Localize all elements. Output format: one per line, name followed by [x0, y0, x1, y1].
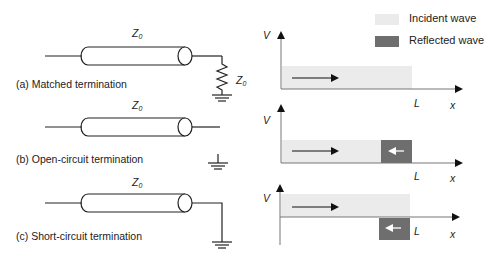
caption-b: (b) Open-circuit termination	[16, 153, 143, 165]
line-impedance-label-c: Z0	[132, 176, 142, 189]
coax-cable-body	[81, 118, 185, 136]
v-axis-label-b: V	[263, 114, 270, 126]
length-label-a: L	[414, 97, 420, 109]
load-impedance-label-a: Z0	[236, 74, 246, 87]
plot-b	[281, 106, 461, 163]
length-label-b: L	[414, 170, 420, 182]
coax-cable-end	[178, 118, 192, 136]
reflected-legend-swatch	[375, 36, 399, 47]
incident-legend-label: Incident wave	[409, 12, 476, 24]
x-axis-label-c: x	[450, 228, 455, 240]
caption-a: (a) Matched termination	[16, 78, 127, 90]
short-wire	[192, 203, 222, 242]
length-label-c: L	[414, 225, 420, 237]
incident-legend-swatch	[375, 14, 399, 25]
line-impedance-label-a: Z0	[132, 27, 142, 40]
v-axis-label-a: V	[263, 29, 270, 41]
ground-icon	[212, 95, 232, 101]
coax-cable-body	[81, 47, 185, 65]
line-impedance-label-b: Z0	[132, 99, 142, 112]
ground-icon	[208, 154, 228, 169]
circuit-a-matched	[45, 47, 232, 101]
coax-cable-end	[178, 194, 192, 212]
x-axis-label-b: x	[450, 172, 455, 184]
coax-cable-body	[81, 194, 185, 212]
reflected-wave-region	[379, 218, 410, 240]
plot-c	[280, 186, 458, 245]
v-axis-label-c: V	[263, 192, 270, 204]
x-axis-label-a: x	[450, 99, 455, 111]
resistor-icon	[217, 56, 227, 95]
caption-c: (c) Short-circuit termination	[16, 230, 142, 242]
ground-icon	[212, 242, 232, 248]
coax-cable-end	[178, 47, 192, 65]
incident-wave-region	[281, 194, 410, 217]
reflected-legend-label: Reflected wave	[409, 34, 484, 46]
